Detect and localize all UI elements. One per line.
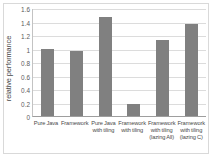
bar-slot <box>119 9 148 116</box>
y-axis-tick-labels: 1.61.41.210.80.60.40.20 <box>15 9 31 117</box>
y-tick-label: 0.6 <box>21 73 30 80</box>
x-tick-label-line: Pure Java <box>90 120 116 127</box>
y-tick-label: 1 <box>26 46 30 53</box>
y-axis-title: relative performance <box>2 12 16 124</box>
bar-slot <box>148 9 177 116</box>
bar-chart-figure: relative performance 1.61.41.210.80.60.4… <box>0 0 212 157</box>
x-tick-label-line: Framework <box>177 120 205 127</box>
x-tick-label-line: Framework <box>118 120 146 127</box>
bars-container <box>33 9 206 116</box>
plot-area <box>32 9 206 117</box>
x-tick-label-line: Framework <box>61 120 89 127</box>
bar-slot <box>177 9 206 116</box>
x-tick-label-line: (lazing C) <box>177 134 205 141</box>
y-tick-label: 1.4 <box>21 19 30 26</box>
bar <box>70 51 83 116</box>
y-tick-label: 0.2 <box>21 100 30 107</box>
bar <box>156 40 169 116</box>
y-tick-label: 1.2 <box>21 33 30 40</box>
bar-slot <box>62 9 91 116</box>
bar <box>127 104 140 116</box>
y-axis-title-text: relative performance <box>5 35 14 100</box>
x-tick-label-line: (lazing All) <box>148 134 176 141</box>
bar <box>185 24 198 116</box>
x-tick-label: Pure Javawith tiling <box>89 120 117 134</box>
bar-slot <box>33 9 62 116</box>
x-tick-label: Framework <box>60 120 90 127</box>
x-tick-label-line: Framework <box>148 120 176 127</box>
x-tick-label: Frameworkwith tiling(lazing C) <box>176 120 206 141</box>
y-tick-label: 0.4 <box>21 87 30 94</box>
x-tick-label-line: with tiling <box>177 127 205 134</box>
y-tick-label: 0 <box>26 114 30 121</box>
x-tick-label-line: Pure Java <box>33 120 59 127</box>
y-tick-label: 1.6 <box>21 6 30 13</box>
bar <box>99 17 112 116</box>
bar <box>41 49 54 116</box>
x-tick-label-line: with tiling <box>148 127 176 134</box>
y-tick-label: 0.8 <box>21 60 30 67</box>
x-tick-label-line: with tiling <box>90 127 116 134</box>
x-tick-label: Frameworkwith tiling <box>117 120 147 134</box>
x-axis-tick-labels: Pure JavaFrameworkPure Javawith tilingFr… <box>32 120 206 156</box>
x-tick-label-line: with tiling <box>118 127 146 134</box>
bar-slot <box>91 9 120 116</box>
x-tick-label: Frameworkwith tiling(lazing All) <box>147 120 177 141</box>
x-tick-label: Pure Java <box>32 120 60 127</box>
